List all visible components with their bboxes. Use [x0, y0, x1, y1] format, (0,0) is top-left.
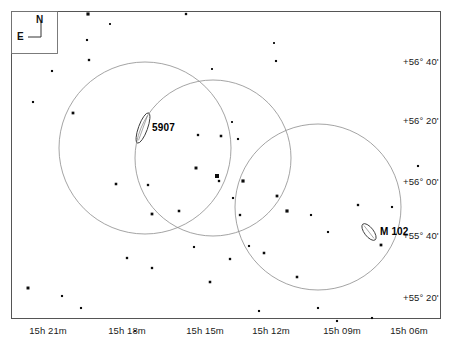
- ra-tick-label: 15h 21m: [19, 325, 77, 336]
- ra-tick-label: 15h 09m: [313, 325, 371, 336]
- star-marker: [178, 210, 181, 213]
- chart-canvas: [0, 0, 461, 347]
- star-marker: [241, 179, 244, 182]
- star-marker: [197, 134, 199, 136]
- star-marker: [88, 59, 90, 61]
- star-marker: [195, 167, 198, 170]
- field-of-view-circles: [59, 62, 401, 290]
- galaxy-m-102: [359, 221, 378, 242]
- ra-tick-label: 15h 12m: [242, 325, 300, 336]
- star-marker: [237, 138, 239, 140]
- dec-tick-label: +56° 20': [403, 115, 439, 126]
- star-marker: [115, 183, 118, 186]
- star-marker: [273, 42, 275, 44]
- star-marker: [380, 244, 383, 247]
- star-marker: [80, 307, 82, 309]
- star-marker: [51, 70, 53, 72]
- ra-tick-label: 15h 18m: [98, 325, 156, 336]
- star-field: [27, 12, 420, 332]
- fov-circle-2: [135, 80, 291, 236]
- star-marker: [232, 197, 234, 199]
- object-label-5907: 5907: [152, 122, 175, 133]
- star-marker: [275, 60, 277, 62]
- star-marker: [72, 112, 75, 115]
- star-marker: [151, 267, 153, 269]
- star-marker: [109, 23, 111, 25]
- star-marker: [239, 214, 241, 216]
- dec-tick-label: +55° 20': [403, 292, 439, 303]
- star-marker: [218, 180, 220, 182]
- dec-tick-label: +56° 40': [403, 56, 439, 67]
- fov-circle-1: [59, 62, 231, 234]
- star-marker: [296, 276, 299, 279]
- star-marker: [27, 287, 30, 290]
- star-marker: [263, 252, 266, 255]
- compass-north-label: N: [36, 14, 43, 25]
- star-marker: [317, 307, 319, 309]
- star-marker: [357, 204, 359, 206]
- galaxy-5907: [133, 111, 152, 144]
- star-marker: [248, 245, 250, 247]
- ra-tick-label: 15h 06m: [380, 325, 438, 336]
- star-marker: [417, 165, 419, 167]
- star-marker: [32, 101, 34, 103]
- star-marker: [310, 214, 312, 216]
- star-marker: [86, 39, 88, 41]
- star-chart: 15h 21m15h 18m15h 15m15h 12m15h 09m15h 0…: [0, 0, 461, 347]
- star-marker: [193, 246, 195, 248]
- star-marker: [231, 121, 233, 123]
- star-marker: [211, 68, 213, 70]
- ra-tick-label: 15h 15m: [176, 325, 234, 336]
- fov-circle-3: [235, 124, 401, 290]
- star-marker: [61, 295, 63, 297]
- star-marker: [209, 281, 212, 284]
- star-marker: [185, 13, 187, 15]
- star-marker: [327, 231, 329, 233]
- star-marker: [391, 206, 393, 208]
- star-marker: [285, 209, 288, 212]
- star-marker: [336, 320, 338, 322]
- compass-east-label: E: [17, 31, 24, 42]
- star-marker: [371, 317, 373, 319]
- chart-frame: [12, 12, 441, 319]
- star-marker: [147, 184, 149, 186]
- star-marker: [215, 174, 219, 178]
- star-marker: [86, 12, 89, 15]
- dec-tick-label: +56° 00': [403, 176, 439, 187]
- star-marker: [151, 213, 154, 216]
- star-marker: [220, 135, 223, 138]
- star-marker: [229, 258, 231, 260]
- star-marker: [276, 195, 279, 198]
- star-marker: [258, 310, 260, 312]
- star-marker: [126, 257, 128, 259]
- object-label-m-102: M 102: [380, 226, 409, 237]
